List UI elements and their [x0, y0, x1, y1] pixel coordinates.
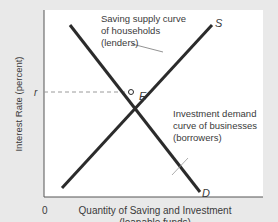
- equilibrium-label: E: [139, 90, 147, 102]
- demand-note-line-1: Investment demand: [173, 108, 256, 119]
- x-axis-title: Quantity of Saving and Investment: [79, 205, 232, 216]
- y-axis-title: Interest Rate (percent): [13, 56, 24, 151]
- x-axis-subtitle: (loanable funds): [119, 217, 191, 222]
- equilibrium-point: [129, 90, 134, 95]
- rate-tick-label: r: [34, 87, 38, 98]
- d-curve-label: D: [202, 187, 210, 199]
- supply-note-line-1: Saving supply curve: [101, 13, 186, 24]
- s-curve-label: S: [215, 17, 223, 29]
- supply-note-line-2: of households: [101, 25, 160, 36]
- demand-note-line-3: (borrowers): [173, 132, 222, 143]
- origin-label: 0: [42, 205, 48, 216]
- supply-note-line-3: (lenders): [101, 37, 139, 48]
- demand-note-line-2: curve of businesses: [173, 120, 257, 131]
- loanable-funds-chart: S D E r 0 Saving supply curve of househo…: [0, 0, 278, 222]
- plot-area: [44, 10, 263, 197]
